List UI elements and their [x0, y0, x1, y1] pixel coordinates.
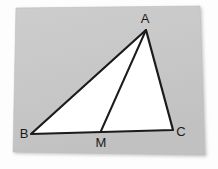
vertex-label-a: A	[141, 11, 150, 26]
figure-canvas: A B M C	[0, 0, 218, 169]
geometry-diagram: A B M C	[0, 0, 218, 169]
vertex-label-b: B	[20, 126, 29, 141]
vertex-label-c: C	[176, 124, 185, 139]
vertex-label-m: M	[96, 135, 107, 150]
